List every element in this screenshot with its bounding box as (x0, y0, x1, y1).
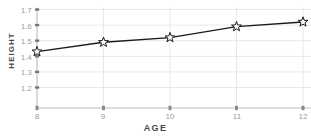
y-tick (35, 55, 39, 57)
x-tick (302, 106, 305, 110)
y-tick (35, 40, 39, 42)
x-tick (36, 106, 39, 110)
y-tick (35, 86, 39, 88)
line-chart: HEIGHT AGE 1.7 1.6 1.5 1.4 1.3 1.2 8 9 1… (0, 0, 311, 137)
y-tick (35, 71, 39, 73)
axis-lines (37, 8, 311, 109)
x-tick (169, 106, 172, 110)
y-tick (35, 8, 39, 10)
x-tick (235, 106, 238, 110)
plot-area (0, 0, 311, 137)
gridlines (37, 8, 311, 109)
x-tick (102, 106, 105, 110)
y-tick (35, 24, 39, 26)
